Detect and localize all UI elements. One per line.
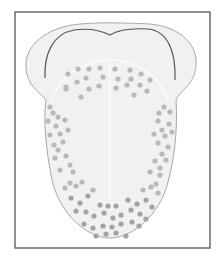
papilla-dot [65,71,70,76]
papilla-dot [77,200,82,205]
papilla-dot [159,151,164,156]
papilla-dot [155,118,160,123]
papilla-dot [153,181,158,186]
papilla-dot [149,204,154,209]
papilla-dot [97,65,102,70]
papilla-dot [90,187,95,192]
papilla-dot [137,211,142,216]
papilla-dot [128,76,133,81]
papilla-dot [93,233,98,238]
papilla-dot [73,208,78,213]
papilla-dot [85,193,90,198]
papilla-dot [136,223,141,228]
papilla-dot [100,74,105,79]
papilla-dot [118,221,123,226]
papilla-dot [96,83,101,88]
papilla-dot [86,66,91,71]
papilla-dot [103,231,108,236]
papilla-dot [57,167,62,172]
papilla-dot [100,223,105,228]
papilla-dot [140,187,145,192]
papilla-dot [105,203,110,208]
papilla-dot [97,202,102,207]
papilla-dot [115,76,120,81]
papilla-dot [113,85,118,90]
papilla-dot [86,86,91,91]
papilla-dot [123,233,128,238]
papilla-dot [91,213,96,218]
papilla-dot [156,110,161,115]
papilla-dot [159,127,164,132]
papilla-dot [67,180,72,185]
papilla-dot [45,118,50,123]
papilla-dot [124,82,129,87]
papilla-dot [162,133,167,138]
papilla-dot [167,109,172,114]
papilla-dot [143,216,148,221]
papilla-dot [55,114,60,119]
papilla-dot [169,129,174,134]
papilla-dot [113,203,118,208]
papilla-dot [109,224,114,229]
papilla-dot [63,86,68,91]
papilla-dot [78,94,83,99]
papilla-dot [125,197,130,202]
papilla-dot [90,225,95,230]
papilla-dot [101,210,106,215]
papilla-dot [147,169,152,174]
papilla-dot [151,131,156,136]
papilla-dot [62,185,67,190]
papilla-dot [63,153,68,158]
papilla-dot [83,75,88,80]
papilla-dot [81,221,86,226]
papilla-dot [148,184,153,189]
papilla-dot [137,82,142,87]
papilla-dot [112,66,117,71]
papilla-dot [138,71,143,76]
papilla-dot [113,230,118,235]
papilla-dot [166,121,171,126]
papilla-dot [127,67,132,72]
papilla-dot [110,215,115,220]
papilla-dot [55,147,60,152]
papilla-dot [73,183,78,188]
papilla-dot [57,131,62,136]
papilla-dot [53,123,58,128]
papilla-dot [67,162,72,167]
papilla-dot [144,88,149,93]
papilla-dot [157,165,162,170]
papilla-dot [128,207,133,212]
papilla-dot [143,197,148,202]
papilla-dot [147,77,152,82]
papilla-dot [62,117,67,122]
papilla-dot [74,79,79,84]
papilla-dot [65,127,70,132]
papilla-dot [51,142,56,147]
papilla-dot [129,219,134,224]
papilla-dot [155,190,160,195]
papilla-dot [60,139,65,144]
papilla-dot [50,110,55,115]
papilla-dot [70,169,75,174]
papilla-dot [75,66,80,71]
papilla-dot [152,158,157,163]
tongue-diagram [0,0,219,262]
papilla-dot [52,155,57,160]
papilla-dot [79,179,84,184]
papilla-dot [165,144,170,149]
papilla-dot [68,195,73,200]
papilla-dot [47,104,52,109]
papilla-dot [157,172,162,177]
papilla-dot [118,212,123,217]
papilla-dot [163,157,168,162]
papilla-dot [83,209,88,214]
papilla-dot [155,140,160,145]
papilla-dot [134,201,139,206]
papilla-dot [47,132,52,137]
papilla-dot [131,92,136,97]
papilla-dot [161,104,166,109]
